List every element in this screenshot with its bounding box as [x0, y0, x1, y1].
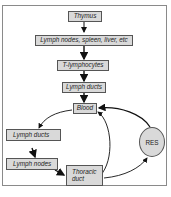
node-label: Thymus — [74, 13, 97, 20]
node-thymus: Thymus — [68, 11, 102, 22]
node-lymph-ducts-left: Lymph ducts — [6, 129, 61, 141]
arrow-thoracic-to-res — [104, 158, 147, 178]
node-label: Lymph ducts — [13, 132, 49, 139]
node-blood: Blood — [73, 103, 97, 114]
arrow-ducts-to-nodes — [32, 148, 35, 157]
node-res: RES — [139, 127, 165, 157]
node-label: Blood — [77, 105, 93, 112]
node-label: T-lymphocytes — [63, 62, 104, 69]
node-label: RES — [145, 139, 158, 146]
node-lymph-ducts-top: Lymph ducts — [62, 82, 106, 93]
node-label: Lymph nodes — [13, 161, 51, 168]
arrow-nodes-to-thoracic — [55, 170, 64, 175]
node-thoracic-duct: Thoracic duct — [66, 165, 103, 186]
node-label-line2: duct — [72, 176, 84, 183]
node-label: Lymph ducts — [66, 84, 102, 91]
node-t-lymphocytes: T-lymphocytes — [57, 60, 109, 71]
arrow-blood-to-lymphducts — [39, 110, 72, 128]
node-label: Lymph nodes, spleen, liver, etc — [40, 37, 128, 44]
node-lymph-nodes: Lymph nodes — [6, 158, 58, 170]
node-lymphoid-organs: Lymph nodes, spleen, liver, etc — [35, 35, 133, 46]
